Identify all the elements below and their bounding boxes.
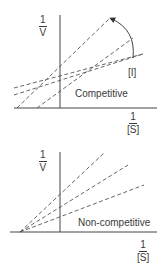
noncompetitive-y-axis-label: 1 V: [39, 150, 47, 173]
increasing-inhibitor-arrow: [112, 19, 133, 58]
x-label-numerator: 1: [129, 112, 137, 124]
y-label-numerator: 1: [39, 15, 47, 27]
competitive-line-no-inhibitor: [14, 54, 143, 88]
y-label-denominator: V: [39, 162, 46, 173]
y-label-numerator: 1: [39, 150, 47, 162]
x-label-denominator: [S]: [137, 252, 149, 263]
x-label-denominator: [S]: [127, 124, 139, 135]
noncompetitive-label: Non-competitive: [78, 218, 150, 228]
y-label-denominator: V: [39, 27, 46, 38]
competitive-x-axis-label: 1 [S]: [127, 112, 139, 135]
x-label-numerator: 1: [139, 240, 147, 252]
competitive-y-axis-label: 1 V: [39, 15, 47, 38]
competitive-label: Competitive: [75, 89, 128, 99]
noncompetitive-x-axis-label: 1 [S]: [137, 240, 149, 263]
inhibitor-label: [I]: [128, 68, 136, 78]
